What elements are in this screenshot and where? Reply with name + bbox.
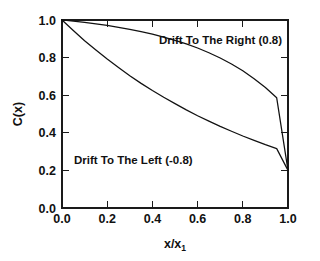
annotation-drift-left: Drift To The Left (-0.8) <box>74 154 193 166</box>
x-tick-label: 0.6 <box>189 212 206 226</box>
x-tick-label: 0.8 <box>234 212 251 226</box>
chart-canvas: 0.0 0.2 0.4 0.6 0.8 1.0 0.0 0.2 0.4 0.6 … <box>0 0 320 261</box>
figure-container: 0.0 0.2 0.4 0.6 0.8 1.0 0.0 0.2 0.4 0.6 … <box>0 0 320 261</box>
x-tick-label: 1.0 <box>279 212 296 226</box>
y-tick-label: 0.0 <box>39 202 56 216</box>
x-axis-label-main: x/x <box>164 237 181 251</box>
x-axis-tick-labels: 0.0 0.2 0.4 0.6 0.8 1.0 <box>53 212 296 226</box>
y-tick-label: 1.0 <box>39 14 56 28</box>
x-axis-label-subscript: 1 <box>181 243 186 253</box>
annotation-drift-right: Drift To The Right (0.8) <box>159 34 282 46</box>
y-tick-label: 0.8 <box>39 51 56 65</box>
y-tick-label: 0.4 <box>39 126 56 140</box>
y-axis-label: C(x) <box>11 102 25 126</box>
x-axis-label: x/x1 <box>164 237 186 253</box>
y-tick-label: 0.6 <box>39 89 56 103</box>
y-axis-tick-labels: 0.0 0.2 0.4 0.6 0.8 1.0 <box>39 14 56 216</box>
x-tick-label: 0.4 <box>144 212 161 226</box>
x-tick-label: 0.2 <box>99 212 116 226</box>
plot-area-background <box>62 20 288 208</box>
y-tick-label: 0.2 <box>39 164 56 178</box>
